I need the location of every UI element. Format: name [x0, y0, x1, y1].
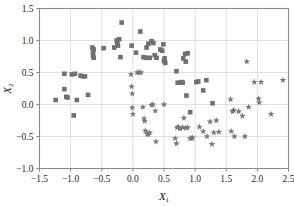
data-point-square	[101, 46, 106, 51]
svg-text:X2: X2	[1, 83, 15, 95]
data-point-square	[201, 88, 206, 93]
data-point-square	[86, 93, 91, 98]
data-point-square	[160, 48, 165, 53]
data-point-square	[53, 98, 58, 103]
data-point-square	[62, 71, 67, 76]
x-tick-label: 1.0	[189, 174, 201, 184]
data-point-square	[116, 43, 121, 48]
y-tick-label: −0.5	[16, 132, 33, 142]
data-point-square	[62, 87, 67, 92]
y-tick-label: 0.0	[22, 100, 34, 110]
y-tick-label: 0.5	[22, 68, 34, 78]
x-tick-label: −1.5	[31, 174, 48, 184]
data-point-square	[117, 37, 122, 42]
svg-text:X1: X1	[158, 190, 170, 204]
data-point-square	[138, 29, 143, 34]
x-tick-label: 0.0	[127, 174, 139, 184]
data-point-square	[161, 42, 166, 47]
y-tick-label: −1.0	[16, 164, 33, 174]
data-point-square	[134, 50, 139, 55]
data-point-square	[204, 78, 209, 83]
data-point-square	[83, 74, 88, 79]
data-point-square	[147, 55, 152, 60]
x-tick-label: −0.5	[93, 174, 110, 184]
data-point-square	[65, 95, 70, 100]
x-tick-label: −1.0	[62, 174, 79, 184]
data-point-square	[210, 101, 215, 106]
x-axis-title: X1	[158, 190, 170, 204]
data-point-square	[185, 51, 190, 56]
data-point-square	[71, 113, 76, 118]
data-point-square	[73, 71, 78, 76]
data-point-square	[91, 47, 96, 52]
y-axis-tick-labels: −1.0−0.50.00.51.01.5	[16, 4, 33, 174]
y-tick-label: 1.0	[22, 36, 34, 46]
x-tick-label: 2.0	[251, 174, 263, 184]
data-point-square	[180, 80, 185, 85]
data-point-square	[184, 93, 189, 98]
x-tick-label: 2.5	[283, 174, 294, 184]
data-point-square	[154, 55, 159, 60]
data-point-square	[129, 43, 134, 48]
x-tick-label: 0.5	[158, 174, 170, 184]
data-point-square	[75, 98, 80, 103]
data-point-square	[188, 110, 193, 115]
data-point-square	[119, 20, 124, 25]
x-tick-label: 1.5	[220, 174, 232, 184]
x-axis-tick-labels: −1.5−1.0−0.50.00.51.01.52.02.5	[31, 174, 294, 184]
scatter-plot-figure: −1.5−1.0−0.50.00.51.01.52.02.5 −1.0−0.50…	[0, 0, 294, 207]
data-point-square	[118, 55, 123, 60]
data-point-square	[196, 79, 201, 84]
data-point-square	[91, 55, 96, 60]
data-point-square	[162, 56, 167, 61]
chart-canvas: −1.5−1.0−0.50.00.51.01.52.02.5 −1.0−0.50…	[0, 0, 294, 207]
data-point-square	[163, 61, 168, 66]
data-point-square	[174, 69, 179, 74]
data-point-square	[151, 41, 156, 46]
y-axis-title: X2	[1, 83, 15, 95]
y-tick-label: 1.5	[22, 4, 34, 14]
data-point-square	[183, 59, 188, 64]
